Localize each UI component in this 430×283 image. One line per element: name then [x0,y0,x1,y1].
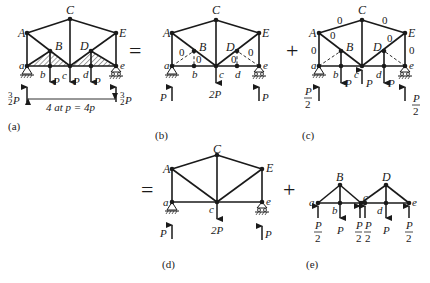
load-label-c: 2P [209,88,222,100]
node-label-b: b [40,68,46,80]
node-label-c: c [363,191,368,203]
node-label-C: C [66,3,75,17]
node-label-C: C [358,3,367,17]
node-label-B: B [199,40,207,54]
node-label-a: a [164,59,170,71]
node-label-C: C [213,142,222,156]
node-label-A: A [162,162,171,176]
reaction-right-num: P [412,92,420,104]
node-label-E: E [265,161,274,175]
zero-label-aB: 0 [179,46,185,58]
node-label-E: E [261,26,270,40]
load-label-c: 2P [211,224,224,236]
load-label-c: P [72,75,80,87]
panel-c: C A E B D a b c d e 0 0 0 0 0 0 P P P P … [302,3,420,142]
force-e-num: P [405,219,413,231]
reaction-right-den: 2 [413,105,419,117]
node-label-B: B [55,39,63,53]
node-label-d: d [235,68,241,80]
zero-label-aA: 0 [311,44,317,56]
node-label-e: e [263,59,268,71]
node-label-B: B [336,170,344,184]
equals-sign-2: = [141,177,153,202]
node-label-C: C [212,3,221,17]
force-c2-num: P [364,219,372,231]
zero-label-bB: 0 [196,53,202,65]
node-label-e: e [412,196,417,208]
truss-members [172,20,259,66]
equals-sign-1: = [129,38,141,63]
node-label-D: D [79,39,89,53]
node-label-D: D [225,40,235,54]
load-label-d: P [382,224,390,236]
reaction-right-den: 2 [120,97,125,107]
caption-d: (d) [162,258,175,271]
truss-members [172,155,262,202]
node-label-b: b [192,68,198,80]
node-label-E: E [407,26,416,40]
force-a-den: 2 [315,232,321,244]
dimension-label: 4 at p = 4p [46,101,95,113]
node-label-e: e [266,195,271,207]
node-label-d: d [83,68,89,80]
panel-b: C A E B D a b c d e 0 0 0 0 2P P P (b) [155,3,270,142]
zero-label-DE: 0 [387,32,393,44]
reaction-left-den: 2 [8,97,13,107]
load-label-b: P [344,77,352,89]
caption-c: (c) [302,129,315,142]
node-label-e: e [120,59,125,71]
node-label-D: D [372,40,382,54]
truss-superposition-figure: C A E B D a b c d e P P P 3 2 P 3 2 P 4 … [0,0,430,283]
force-c1-num: P [355,219,363,231]
zero-label-dD: 0 [231,53,237,65]
zero-label-AC: 0 [337,14,343,26]
load-label-d: P [93,75,101,87]
reaction-right-sym: P [124,94,132,106]
zero-label-eE: 0 [409,44,415,56]
node-label-D: D [381,170,391,184]
load-label-b: P [52,75,60,87]
node-label-c: c [354,68,359,80]
node-label-A: A [17,26,26,40]
load-label-d: P [387,77,395,89]
reaction-left-sym: P [12,94,20,106]
reaction-left-label: P [159,91,167,103]
node-label-a: a [163,196,169,208]
panel-a: C A E B D a b c d e P P P 3 2 P 3 2 P 4 … [8,3,132,133]
reaction-right-label: P [264,228,272,240]
node-label-B: B [346,40,354,54]
node-label-c: c [62,69,67,81]
caption-a: (a) [8,120,21,133]
zero-label-AB: 0 [330,29,336,41]
zero-label-CE: 0 [382,14,388,26]
reaction-left-label: P [159,227,167,239]
hatched-region-left [27,51,70,66]
caption-e: (e) [306,258,319,271]
reaction-left-num: P [304,85,312,97]
node-label-a: a [311,59,317,71]
force-c1-den: 2 [356,232,362,244]
reaction-right-label: P [261,91,269,103]
force-a-num: P [314,219,322,231]
plus-sign-2: + [283,177,295,202]
node-label-A: A [162,26,171,40]
zero-label-eD: 0 [248,46,254,58]
force-c2-den: 2 [365,232,371,244]
panel-e: B D a b c d e P P P 2 P 2 P 2 P 2 (e) [306,170,417,271]
plus-sign-1: + [286,38,298,63]
panel-d: C A E a c e 2P P P (d) [159,142,274,271]
node-label-E: E [118,26,127,40]
reaction-left-den: 2 [305,98,311,110]
node-label-e: e [409,59,414,71]
node-label-c: c [219,68,224,80]
force-e-den: 2 [406,232,412,244]
node-label-a: a [19,59,25,71]
node-label-d: d [377,204,383,216]
node-label-a: a [309,196,315,208]
node-label-A: A [308,26,317,40]
caption-b: (b) [155,129,168,142]
node-label-b: b [332,204,338,216]
hatched-region-right [70,51,116,66]
node-label-d: d [376,68,382,80]
node-label-c: c [209,203,214,215]
